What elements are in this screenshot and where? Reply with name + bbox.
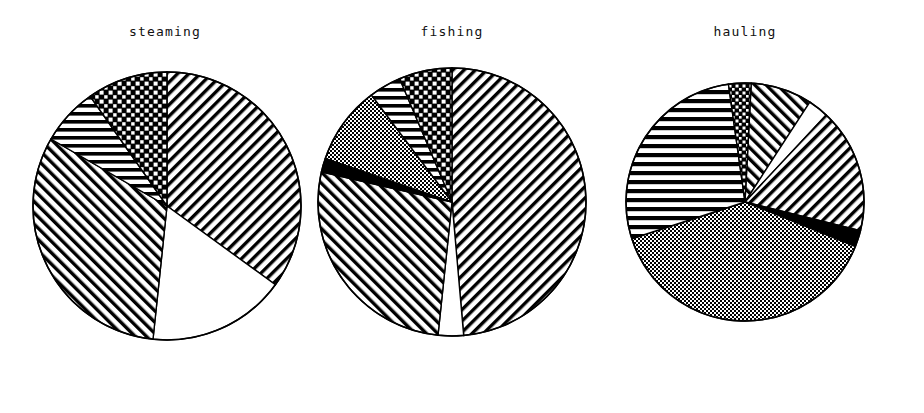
pie-svg-hauling bbox=[0, 0, 924, 413]
pie-chart-figure: steaming bbox=[0, 0, 924, 413]
pie-panel-hauling: hauling bbox=[0, 0, 924, 413]
pie-canvas-hauling bbox=[0, 0, 924, 413]
pie-slices-hauling bbox=[626, 83, 864, 321]
